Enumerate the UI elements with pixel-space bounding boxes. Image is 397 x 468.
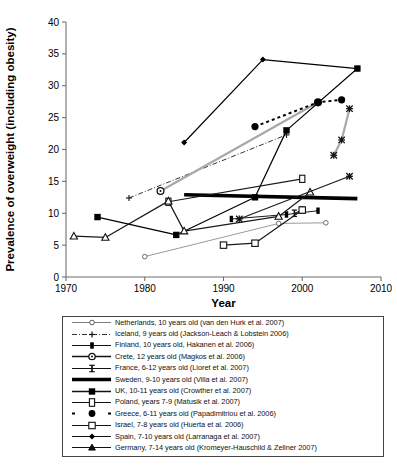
marker-open-triangle [70,232,77,239]
legend-marker-filled-square [89,388,95,394]
legend-item[interactable]: Iceland, 9 years old (Jackson-Leach & Lo… [63,328,383,339]
legend-label: Finland, 10 years old, Hakanen et al. 20… [115,341,254,349]
legend-label: Germany, 7-14 years old (Kromeyer-Hausch… [115,444,317,452]
legend-label: Poland, years 7-9 (Matusik et al. 2007) [115,398,240,406]
legend-key-plus-dashdot [69,329,115,340]
legend-dot [108,413,111,415]
y-tick-label: 35 [48,48,60,59]
series-10 [181,57,360,146]
legend-key-open-circle-small [69,317,115,328]
legend-item[interactable]: Finland, 10 years old, Hakanen et al. 20… [63,340,383,351]
marker-filled-square-narrow [316,208,319,214]
marker-open-square [299,207,305,213]
legend-key-filled-diamond [69,431,115,442]
series-5 [184,195,357,199]
series-line [161,102,319,191]
marker-open-square [220,242,226,248]
marker-open-square [252,240,258,246]
legend-key-open-triangle [69,442,115,453]
legend-key-open-square [69,420,115,431]
marker-filled-circle-large [314,99,321,106]
legend-key-solid-thick [69,374,115,385]
legend-item[interactable]: Germany, 7-14 years old (Kromeyer-Hausch… [63,442,383,453]
series-12 [330,105,353,158]
marker-filled-circle-large [338,96,345,103]
y-tick-label: 10 [48,208,60,219]
legend-marker-plus [89,331,95,337]
marker-open-square-tall [300,175,305,182]
legend-region: Netherlands, 10 years old (van den Hurk … [0,312,397,468]
legend-label: Crete, 12 years old (Magkos et al. 2006) [115,353,245,361]
legend-label: Spain, 7-10 years old (Larranaga et al. … [115,433,260,441]
marker-filled-square [252,194,258,200]
legend-item[interactable]: Spain, 7-10 years old (Larranaga et al. … [63,431,383,442]
marker-filled-circle-large [251,123,258,130]
legend-marker-filled-diamond [89,434,95,440]
y-axis-title: Prevalence of overweight (including obes… [4,27,16,271]
legend-key-dotted-filled-circle [69,408,115,419]
y-tick-label: 40 [48,17,60,28]
legend-item[interactable]: Greece, 6-11 years old (Papadimitriou et… [63,408,383,419]
series-0 [142,221,328,259]
series-line [184,195,357,199]
y-tick-label: 20 [48,144,60,155]
legend-item[interactable]: France, 6-12 years old (Lioret et al. 20… [63,363,383,374]
legend-item[interactable]: Netherlands, 10 years old (van den Hurk … [63,317,383,328]
legend-label: Iceland, 9 years old (Jackson-Leach & Lo… [115,330,289,338]
legend-label: Greece, 6-11 years old (Papadimitriou et… [115,410,276,418]
x-tick-label: 2000 [291,283,314,294]
x-tick-label: 1980 [134,283,157,294]
x-tick-label: 2010 [370,283,393,294]
x-axis-title: Year [211,297,236,309]
series-line [334,109,350,156]
legend-marker-open-square-tall [89,399,94,407]
legend-key-filled-square-narrow [69,340,115,351]
chart-page: 051015202530354019701980199020002010Year… [0,0,397,468]
x-tick-label: 1970 [55,283,78,294]
series-line [129,135,287,198]
legend-item[interactable]: Crete, 12 years old (Magkos et al. 2006) [63,351,383,362]
legend-box: Netherlands, 10 years old (van den Hurk … [62,316,384,457]
legend-item[interactable]: Poland, years 7-9 (Matusik et al. 2007) [63,397,383,408]
series-1 [126,132,290,201]
legend-marker-open-circle-dot [91,356,93,358]
y-tick-label: 0 [53,272,59,283]
plot-area: 051015202530354019701980199020002010Year… [0,0,397,312]
series-2 [230,208,320,223]
prevalence-line-chart: 051015202530354019701980199020002010Year… [0,0,397,312]
marker-open-circle-small [324,221,329,226]
legend-marker-open-square [89,422,95,428]
y-tick-label: 5 [53,240,59,251]
x-tick-label: 1990 [212,283,235,294]
legend-label: UK, 10-11 years old (Crowther et al. 200… [115,387,251,395]
marker-filled-square [283,127,289,133]
y-tick-label: 30 [48,80,60,91]
legend-marker-open-circle-small [90,320,95,325]
y-tick-label: 25 [48,112,60,123]
legend-item[interactable]: UK, 10-11 years old (Crowther et al. 200… [63,385,383,396]
legend-item[interactable]: Israel, 7-8 years old (Huerta et al. 200… [63,420,383,431]
legend-key-open-square-tall [69,397,115,408]
marker-open-circle-small [142,254,147,259]
series-7 [166,175,305,205]
marker-open-circle-dot [160,190,162,192]
legend-dot [72,413,75,415]
legend-marker-filled-circle [89,410,96,417]
series-line [145,223,326,257]
legend-key-open-circle [69,351,115,362]
legend-label: Israel, 7-8 years old (Huerta et al. 200… [115,421,244,429]
legend-marker-filled-square-narrow [90,342,94,348]
legend-label: Netherlands, 10 years old (van den Hurk … [115,319,284,327]
marker-open-triangle [275,213,282,220]
legend-key-filled-square [69,386,115,397]
marker-filled-square-narrow [230,216,233,222]
series-6 [94,65,360,238]
legend-item[interactable]: Sweden, 9-10 years old (Villa et al. 200… [63,374,383,385]
legend-label: France, 6-12 years old (Lioret et al. 20… [115,364,249,372]
marker-filled-square [173,232,179,238]
marker-filled-square-narrow [285,211,288,217]
marker-filled-square [94,214,100,220]
y-tick-label: 15 [48,176,60,187]
legend-key-bar-I [69,363,115,374]
legend-label: Sweden, 9-10 years old (Villa et al. 200… [115,376,248,384]
